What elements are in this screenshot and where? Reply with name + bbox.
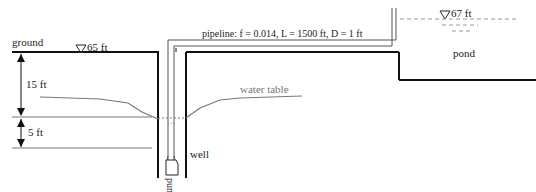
well-pump-diagram: ground 65 ft 67 ft pond pipeline: f = 0.… [0,0,536,192]
dimension-15ft [17,54,25,116]
ground-label: ground [12,36,44,48]
depth-15ft-label: 15 ft [26,78,46,90]
pond-label: pond [453,47,476,59]
dimension-5ft [17,119,25,147]
ground-surface-left [12,52,159,178]
ground-elevation-label: 65 ft [87,41,107,53]
pond-level-marker-icon [440,11,450,19]
pond-water-surface [400,19,518,31]
pipeline-label: pipeline: f = 0.014, L = 1500 ft, D = 1 … [202,28,363,39]
water-table-label: water table [240,83,289,95]
water-table [40,96,302,123]
pond-elevation-label: 67 ft [451,7,471,19]
depth-5ft-label: 5 ft [28,126,43,138]
pump [166,156,178,175]
well-label: well [190,148,209,160]
pump-label: pump [165,178,176,192]
ground-surface-right [186,52,536,178]
